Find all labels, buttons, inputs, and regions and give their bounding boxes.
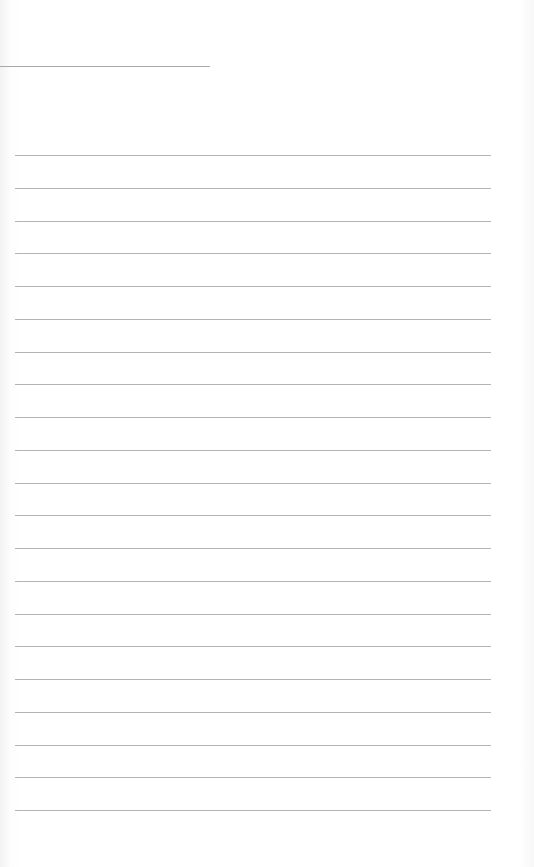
ruled-line: [15, 450, 491, 451]
ruled-line: [15, 581, 491, 582]
ruled-line: [15, 745, 491, 746]
lined-paper-page: [0, 0, 534, 867]
ruled-line: [15, 548, 491, 549]
ruled-line: [15, 810, 491, 811]
ruled-line: [15, 155, 491, 156]
ruled-lines: [0, 0, 534, 867]
ruled-line: [15, 614, 491, 615]
ruled-line: [15, 352, 491, 353]
ruled-line: [15, 646, 491, 647]
ruled-line: [15, 286, 491, 287]
ruled-line: [15, 483, 491, 484]
ruled-line: [15, 384, 491, 385]
ruled-line: [15, 319, 491, 320]
ruled-line: [15, 221, 491, 222]
ruled-line: [15, 417, 491, 418]
ruled-line: [15, 188, 491, 189]
ruled-line: [15, 777, 491, 778]
ruled-line: [15, 515, 491, 516]
ruled-line: [15, 253, 491, 254]
ruled-line: [15, 679, 491, 680]
ruled-line: [15, 712, 491, 713]
